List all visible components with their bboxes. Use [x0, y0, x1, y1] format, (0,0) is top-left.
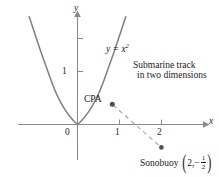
x-axis-label: x	[209, 116, 213, 126]
sonobuoy-label-text: Sonobuoy	[140, 158, 179, 168]
paren-open: (	[182, 155, 186, 171]
fraction-numerator: 1	[201, 155, 207, 162]
sonobuoy-coordinate-body: 2, − 1 2	[187, 155, 206, 171]
submarine-track-label: Submarine track in two dimensions	[133, 60, 207, 81]
cpa-label: CPA	[84, 94, 102, 104]
x-tick-label-2: 2	[157, 127, 162, 137]
origin-tick-label: 0	[65, 127, 70, 137]
curve-equation-base: y = x	[106, 44, 126, 54]
curve-equation-label: y = x2	[106, 42, 129, 54]
sonobuoy-y-fraction: 1 2	[201, 155, 207, 171]
sonobuoy-x-value: 2,	[187, 158, 194, 168]
y-tick-label-1: 1	[62, 66, 67, 76]
submarine-track-figure: y x 0 1 2 1 y = x2 Submarine track in tw…	[0, 0, 219, 177]
sonobuoy-minus-sign: −	[194, 158, 199, 168]
x-tick-label-1: 1	[115, 127, 120, 137]
y-axis-label: y	[74, 3, 78, 13]
sonobuoy-coordinate: ( 2, − 1 2 )	[181, 155, 213, 171]
submarine-track-line-1: Submarine track	[133, 60, 207, 70]
curve-equation-exponent: 2	[126, 42, 129, 49]
fraction-denominator: 2	[201, 164, 207, 171]
sonobuoy-label-group: Sonobuoy ( 2, − 1 2 )	[140, 155, 213, 171]
sonobuoy-point	[159, 145, 164, 150]
cpa-point	[110, 102, 115, 107]
paren-close: )	[207, 155, 211, 171]
submarine-track-line-2: in two dimensions	[133, 70, 207, 80]
line-of-sight-dashed	[113, 105, 161, 147]
